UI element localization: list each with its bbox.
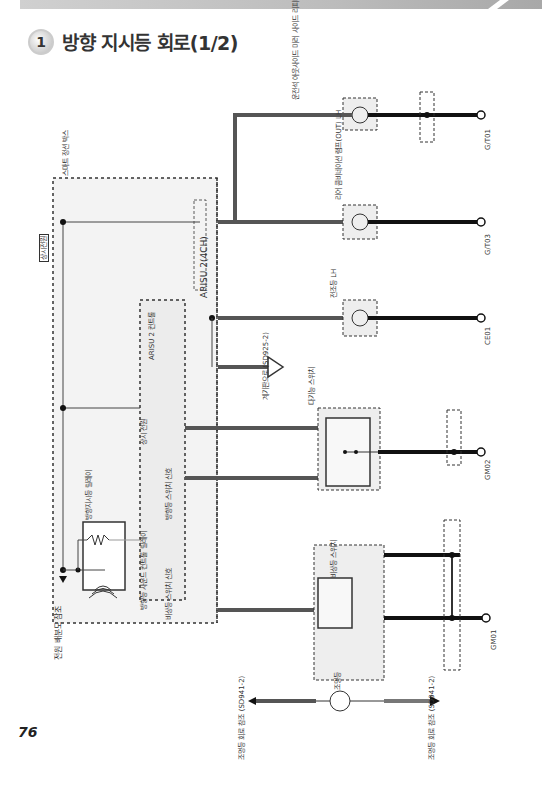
illum-in-ref: 조명등 회로 참조 (SD941-2) xyxy=(238,676,246,760)
side-repeater-label: 운전석 아웃사이드 미러 사이드 리피터 xyxy=(292,0,300,100)
const-power-inner-label: 상시 전원 xyxy=(140,419,148,445)
ground-ce01: CE01 xyxy=(484,327,492,345)
multifunction-switch-label: 다기능 스위치 xyxy=(308,367,316,405)
ground-gt03: G/T03 xyxy=(484,234,492,255)
relay-label: 방향지시등 릴레이 xyxy=(85,470,93,520)
ground-gm01: GM01 xyxy=(490,630,498,650)
relay-signal-label: 방향등 사운드 컨트롤 릴레이 xyxy=(140,531,148,610)
arisu-controller-label: ARISU 2 컨트롤 xyxy=(148,312,156,360)
smart-junction-box-label: 스마트 정션 박스 xyxy=(62,130,70,176)
ground-gm02: GM02 xyxy=(484,460,492,480)
power-ref-label: 전원 배분도 참조 xyxy=(55,606,63,660)
hazard-switch-label: 비상등 스위치 xyxy=(330,540,338,578)
gauge-ref: 계기판으로 (SD925-2) xyxy=(262,332,270,400)
wiring-diagram xyxy=(0,0,542,790)
headlamp-label: 전조등 LH xyxy=(330,269,338,298)
turn-switch-signal-label: 방향등 스위치 신호 xyxy=(165,468,173,520)
illumination-label: 조명등 xyxy=(334,672,342,690)
page-number: 76 xyxy=(18,724,37,740)
illum-out-ref: 조명등 회로 참조 (SD941-2) xyxy=(428,676,436,760)
arisu-label: ARISU 2(4CH) xyxy=(200,236,208,298)
constant-power-label: 상시전원 xyxy=(40,234,48,262)
ground-gt01: G/T01 xyxy=(484,129,492,150)
rear-combo-label: 리어 콤비네이션 램프(OUT) LH xyxy=(335,110,343,200)
hazard-signal-label: 비상등 스위치 신호 xyxy=(165,568,173,620)
